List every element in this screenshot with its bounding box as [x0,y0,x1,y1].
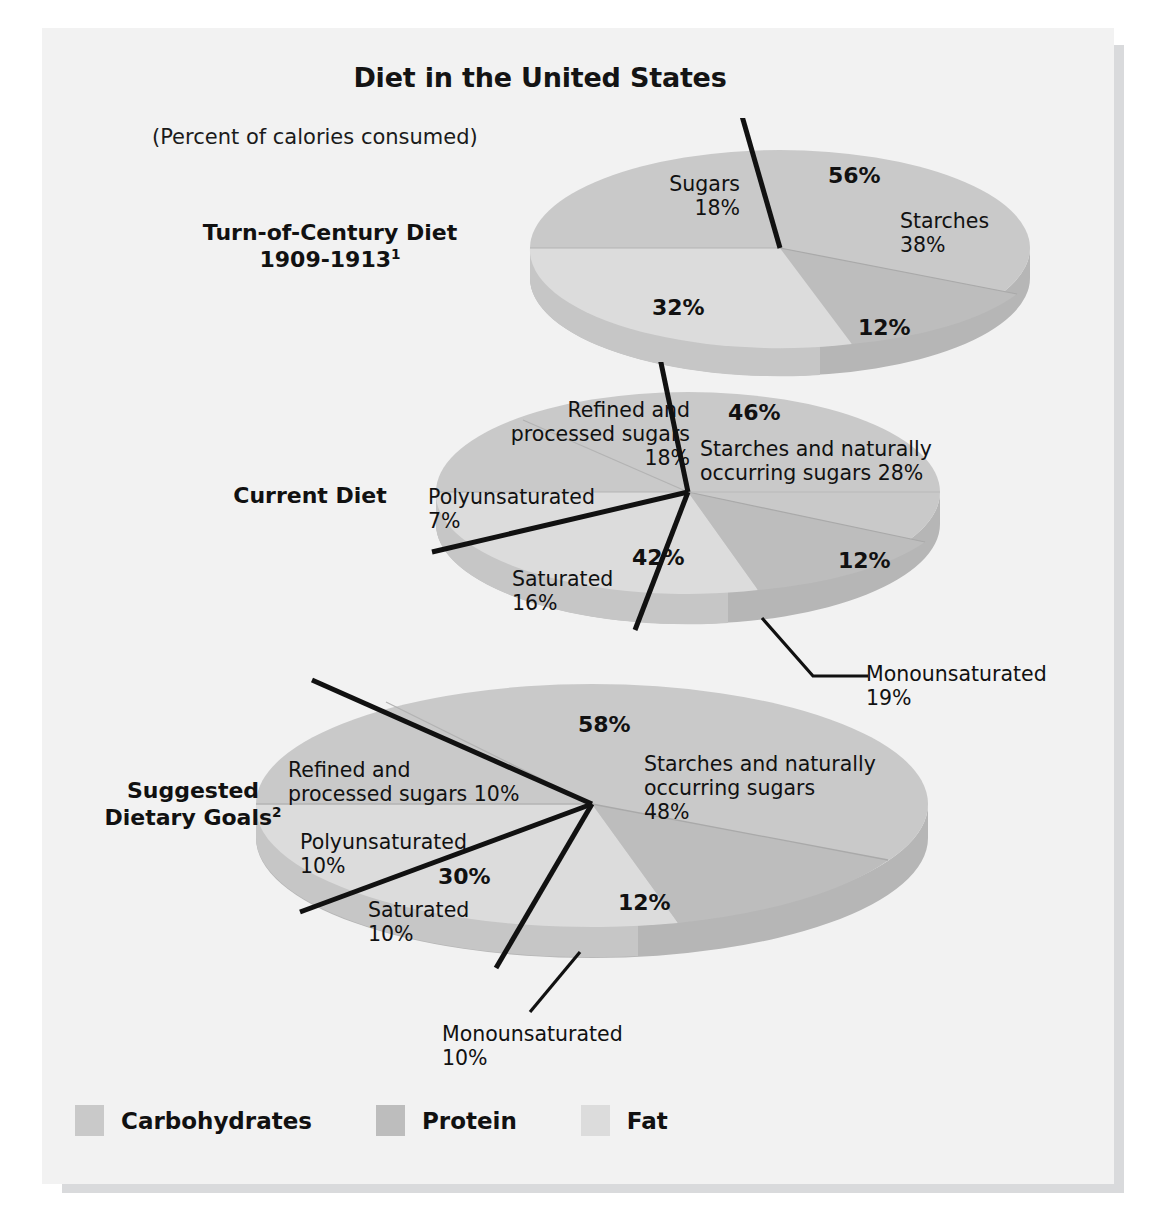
chart-2-carbs-total: 46% [728,400,781,426]
legend-label-carbohydrates: Carbohydrates [121,1108,312,1134]
page-title: Diet in the United States [0,62,1080,93]
chart-1-fat-total: 32% [652,295,705,321]
chart-3-monounsaturated-label: Monounsaturated 10% [442,1022,623,1070]
legend-swatch-fat [581,1105,610,1136]
legend-swatch-protein [376,1105,405,1136]
legend-item-fat: Fat [581,1105,668,1136]
chart-1-label: Turn-of-Century Diet 1909-19131 [180,220,480,274]
chart-1-starches-label: Starches 38% [900,209,989,257]
chart-3-carbs-total: 58% [578,712,631,738]
legend-label-fat: Fat [627,1108,668,1134]
legend-item-protein: Protein [376,1105,517,1136]
chart-2-protein-total: 12% [838,548,891,574]
chart-2-polyunsaturated-label: Polyunsaturated 7% [428,485,595,533]
chart-3-label: Suggested Dietary Goals2 [68,778,318,832]
legend-swatch-carbohydrates [75,1105,104,1136]
chart-subtitle: (Percent of calories consumed) [152,125,478,149]
chart-3-fat-total: 30% [438,864,491,890]
legend: Carbohydrates Protein Fat [75,1105,732,1136]
chart-canvas: Diet in the United States (Percent of ca… [0,0,1164,1230]
chart-2-fat-total: 42% [632,545,685,571]
chart-3-protein-total: 12% [618,890,671,916]
chart-2-label: Current Diet [170,483,450,509]
chart-2-saturated-label: Saturated 16% [512,567,613,615]
footnote-marker-1: 1 [391,246,400,262]
chart-2-refined-sugars-label: Refined and processed sugars 18% [460,398,690,471]
legend-label-protein: Protein [422,1108,517,1134]
chart-2-starches-label: Starches and naturally occurring sugars … [700,437,932,485]
chart-3-saturated-label: Saturated 10% [368,898,469,946]
chart-3-refined-sugars-label: Refined and processed sugars 10% [288,758,519,806]
chart-3-starches-label: Starches and naturally occurring sugars … [644,752,876,825]
chart-1-protein-total: 12% [858,315,911,341]
chart-3-monounsaturated-leader-line [524,948,594,1018]
footnote-marker-2: 2 [272,804,281,820]
chart-1-carbs-total: 56% [828,163,881,189]
legend-item-carbohydrates: Carbohydrates [75,1105,312,1136]
chart-1-sugars-label: Sugars 18% [560,172,740,220]
